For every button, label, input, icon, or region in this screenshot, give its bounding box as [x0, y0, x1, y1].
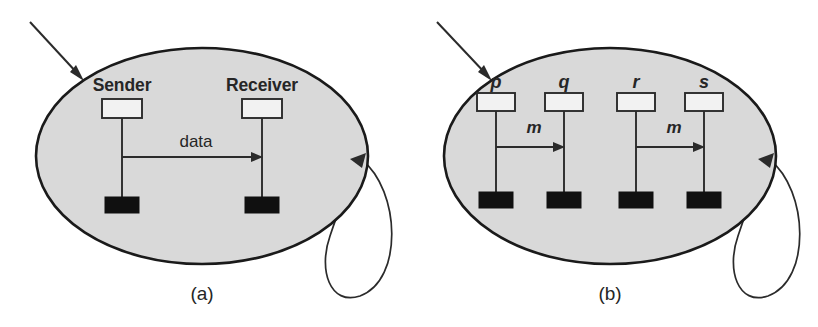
message-label-data: data: [179, 132, 213, 151]
terminator-box-q: [547, 192, 581, 208]
terminator-box-receiver: [245, 197, 279, 213]
terminator-box-sender: [105, 197, 139, 213]
message-label-m-pq: m: [526, 118, 541, 137]
participant-head-box-r: [617, 93, 655, 111]
participant-label-r: r: [632, 72, 640, 92]
terminator-box-r: [619, 192, 653, 208]
figure-container: Sender Receiver data (a): [0, 0, 818, 327]
participant-head-box-q: [545, 93, 583, 111]
system-boundary-ellipse-a: [36, 48, 368, 264]
message-label-m-rs: m: [666, 118, 681, 137]
participant-label-receiver: Receiver: [226, 75, 298, 95]
terminator-box-s: [687, 192, 721, 208]
panel-caption-a: (a): [190, 283, 213, 304]
participant-head-box-s: [685, 93, 723, 111]
terminator-box-p: [479, 192, 513, 208]
diagram-canvas: Sender Receiver data (a): [0, 0, 818, 327]
incoming-arrow-line-b: [437, 22, 486, 74]
participant-head-box-receiver: [242, 99, 282, 118]
participant-label-sender: Sender: [93, 75, 152, 95]
participant-head-box-p: [477, 93, 515, 111]
panel-a: Sender Receiver data (a): [30, 22, 392, 304]
incoming-arrow-line-a: [30, 22, 78, 74]
participant-label-p: p: [490, 72, 502, 92]
participant-label-s: s: [699, 72, 709, 92]
panel-caption-b: (b): [598, 283, 621, 304]
participant-head-box-sender: [102, 99, 142, 118]
participant-label-q: q: [559, 72, 570, 92]
panel-b: p q r s: [437, 22, 800, 304]
